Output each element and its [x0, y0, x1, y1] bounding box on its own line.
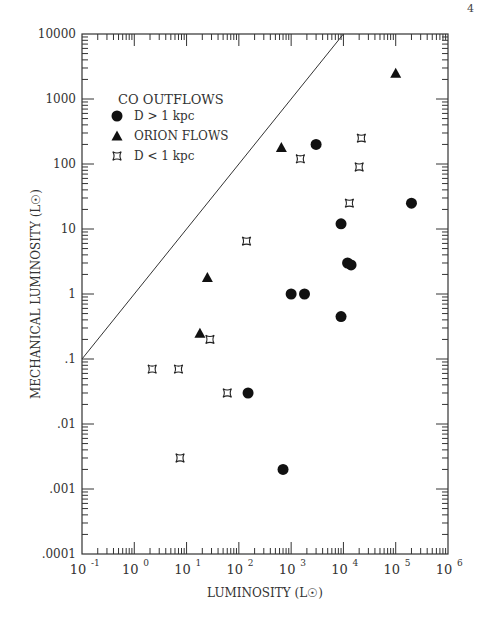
svg-text:4: 4: [352, 558, 358, 568]
circle-marker: [406, 198, 417, 209]
circle-marker: [112, 111, 123, 122]
svg-text:-1: -1: [91, 558, 100, 568]
y-tick-label: 1000: [45, 92, 76, 106]
circle-marker: [336, 218, 347, 229]
y-tick-labels: 100001000100101.1.01.001.0001: [38, 27, 76, 561]
svg-text:6: 6: [457, 558, 463, 568]
x-axis-label: LUMINOSITY (L☉): [207, 586, 323, 600]
svg-text:1: 1: [196, 558, 202, 568]
star-marker: [345, 199, 353, 207]
circle-marker: [299, 289, 310, 300]
triangle-marker: [276, 142, 287, 152]
star-marker: [174, 365, 182, 373]
circle-marker: [346, 259, 357, 270]
y-tick-label: 10: [61, 222, 76, 236]
y-tick-label: 10000: [38, 27, 76, 41]
equality-line: [82, 34, 343, 359]
circle-marker: [278, 464, 289, 475]
x-tick-label: 10: [436, 562, 453, 577]
star-marker: [148, 365, 156, 373]
star-marker: [206, 335, 214, 343]
x-tick-label: 10: [174, 562, 191, 577]
triangle-marker: [112, 131, 123, 141]
legend-title: CO OUTFLOWS: [118, 92, 224, 107]
x-tick-label: 10: [383, 562, 400, 577]
star-marker: [242, 237, 250, 245]
x-tick-label: 10: [279, 562, 296, 577]
circle-marker: [311, 139, 322, 150]
circle-marker: [243, 387, 254, 398]
legend-entry-label: D < 1 kpc: [134, 149, 195, 163]
star-marker: [357, 134, 365, 142]
svg-text:0: 0: [143, 558, 149, 568]
y-tick-label: 1: [68, 287, 76, 301]
svg-text:5: 5: [405, 558, 411, 568]
legend-entry-label: D > 1 kpc: [134, 109, 195, 123]
circle-marker: [336, 311, 347, 322]
svg-text:2: 2: [248, 558, 254, 568]
legend-entry-label: ORION FLOWS: [134, 129, 228, 143]
triangle-marker: [194, 328, 205, 338]
star-marker: [296, 155, 304, 163]
scatter-chart: 100001000100101.1.01.001.0001 10-1100101…: [0, 0, 478, 618]
x-tick-label: 10: [227, 562, 244, 577]
legend: CO OUTFLOWS D > 1 kpcORION FLOWSD < 1 kp…: [112, 92, 229, 163]
star-marker: [113, 152, 121, 160]
star-marker: [176, 454, 184, 462]
x-tick-label: 10: [70, 562, 87, 577]
triangle-marker: [202, 272, 213, 282]
y-tick-label: .001: [49, 482, 76, 496]
x-tick-label: 10: [122, 562, 139, 577]
y-tick-label: .0001: [42, 547, 76, 561]
triangle-marker: [390, 68, 401, 78]
y-tick-label: 100: [53, 157, 76, 171]
y-axis-label: MECHANICAL LUMINOSITY (L☉): [29, 189, 43, 399]
svg-text:3: 3: [300, 558, 306, 568]
star-marker: [355, 163, 363, 171]
star-marker: [223, 389, 231, 397]
x-tick-labels: 10-1100101102103104105106: [70, 558, 463, 577]
y-tick-label: .1: [65, 352, 76, 366]
y-tick-label: .01: [57, 417, 76, 431]
x-tick-label: 10: [331, 562, 348, 577]
circle-marker: [286, 289, 297, 300]
